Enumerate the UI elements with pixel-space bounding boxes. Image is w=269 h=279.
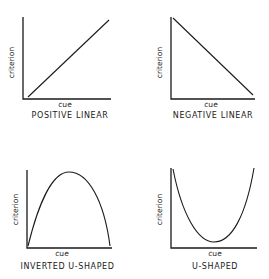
diagram-canvas: [0, 0, 269, 279]
panel-negative-linear: [171, 17, 255, 99]
axes: [23, 17, 111, 99]
axes: [171, 17, 255, 99]
x-axis-label-u-shaped: cue: [195, 249, 235, 258]
panel-u-shaped: [171, 168, 257, 248]
trend-line: [28, 20, 109, 97]
panel-title-positive-linear: POSITIVE LINEAR: [20, 111, 120, 120]
x-axis-label-positive-linear: cue: [45, 100, 85, 109]
panel-title-inverted-u-shaped: INVERTED U-SHAPED: [10, 262, 125, 271]
trend-line: [173, 18, 253, 95]
y-axis-label-inverted-u-shaped: criterion: [11, 190, 20, 230]
x-axis-label-negative-linear: cue: [191, 100, 231, 109]
panel-inverted-u-shaped: [27, 170, 112, 248]
y-axis-label-negative-linear: criterion: [155, 43, 164, 83]
x-axis-label-inverted-u-shaped: cue: [42, 249, 82, 258]
axes: [27, 170, 112, 248]
trend-curve: [173, 168, 254, 242]
panel-positive-linear: [23, 17, 111, 99]
panel-title-negative-linear: NEGATIVE LINEAR: [161, 111, 265, 120]
panel-title-u-shaped: U-SHAPED: [175, 262, 255, 271]
y-axis-label-u-shaped: criterion: [155, 190, 164, 230]
trend-curve: [28, 172, 110, 246]
y-axis-label-positive-linear: criterion: [7, 43, 16, 83]
